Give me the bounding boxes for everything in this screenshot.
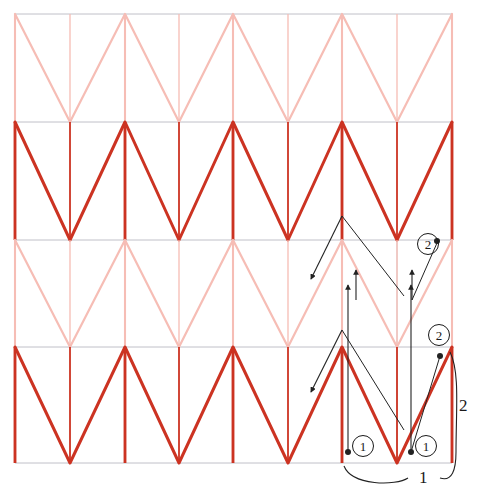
zigzag-row-1 [15, 122, 452, 240]
zigzag-rows [15, 14, 452, 463]
circled-number-1: 2 [417, 233, 439, 255]
circled-number-2: 2 [428, 324, 450, 346]
brace-1 [344, 466, 408, 483]
zigzag-row-0 [15, 14, 452, 122]
zigzag-row-2 [15, 240, 452, 347]
zigzag-row-3 [15, 347, 452, 463]
figure-canvas: 221112 [0, 0, 483, 497]
circled-number-3: 1 [352, 435, 374, 457]
circled-number-4: 1 [415, 435, 437, 457]
brace-label-1: 1 [419, 469, 428, 486]
zigzag-pattern-svg [0, 0, 483, 497]
annotation-dot-3 [408, 449, 414, 455]
brace-2 [440, 352, 457, 479]
annotation-dot-1 [437, 353, 443, 359]
annotation-dot-2 [345, 449, 351, 455]
brace-label-2: 2 [459, 397, 468, 414]
